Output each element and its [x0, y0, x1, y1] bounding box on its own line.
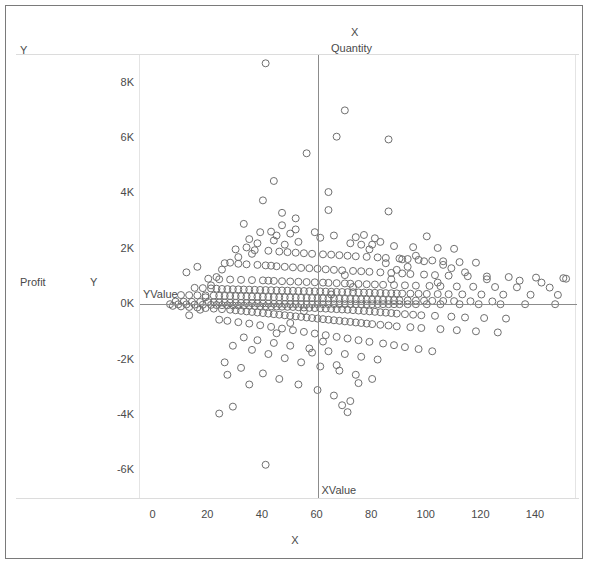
- scatter-point[interactable]: [259, 370, 266, 377]
- scatter-point[interactable]: [276, 375, 283, 382]
- scatter-point[interactable]: [448, 265, 455, 272]
- scatter-point[interactable]: [248, 346, 255, 353]
- scatter-point[interactable]: [445, 291, 452, 298]
- scatter-point[interactable]: [295, 278, 302, 285]
- scatter-point[interactable]: [418, 325, 425, 332]
- scatter-point[interactable]: [385, 322, 392, 329]
- scatter-point[interactable]: [306, 265, 313, 272]
- scatter-point[interactable]: [235, 254, 242, 261]
- scatter-point[interactable]: [330, 392, 337, 399]
- scatter-point[interactable]: [281, 263, 288, 270]
- scatter-point[interactable]: [358, 268, 365, 275]
- scatter-point[interactable]: [391, 243, 398, 250]
- scatter-point[interactable]: [243, 261, 250, 268]
- scatter-point[interactable]: [295, 238, 302, 245]
- scatter-point[interactable]: [538, 279, 545, 286]
- scatter-point[interactable]: [412, 282, 419, 289]
- scatter-point[interactable]: [391, 342, 398, 349]
- scatter-point[interactable]: [238, 364, 245, 371]
- scatter-point[interactable]: [429, 348, 436, 355]
- scatter-point[interactable]: [371, 281, 378, 288]
- scatter-point[interactable]: [415, 346, 422, 353]
- scatter-point[interactable]: [240, 334, 247, 341]
- scatter-point[interactable]: [554, 291, 561, 298]
- scatter-point[interactable]: [426, 282, 433, 289]
- scatter-point[interactable]: [328, 251, 335, 258]
- scatter-point[interactable]: [407, 290, 414, 297]
- scatter-point[interactable]: [240, 220, 247, 227]
- scatter-point[interactable]: [322, 266, 329, 273]
- scatter-point[interactable]: [369, 375, 376, 382]
- scatter-point[interactable]: [393, 266, 400, 273]
- scatter-point[interactable]: [431, 312, 438, 319]
- scatter-point[interactable]: [546, 284, 553, 291]
- scatter-point[interactable]: [341, 107, 348, 114]
- scatter-point[interactable]: [257, 322, 264, 329]
- scatter-point[interactable]: [183, 269, 190, 276]
- scatter-point[interactable]: [229, 342, 236, 349]
- scatter-point[interactable]: [279, 222, 286, 229]
- scatter-point[interactable]: [355, 337, 362, 344]
- scatter-point[interactable]: [377, 321, 384, 328]
- scatter-point[interactable]: [363, 253, 370, 260]
- scatter-point[interactable]: [292, 215, 299, 222]
- scatter-point[interactable]: [336, 252, 343, 259]
- scatter-point[interactable]: [423, 290, 430, 297]
- scatter-point[interactable]: [273, 330, 280, 337]
- scatter-point[interactable]: [257, 229, 264, 236]
- scatter-point[interactable]: [319, 338, 326, 345]
- scatter-point[interactable]: [358, 353, 365, 360]
- plot-area[interactable]: YValue XValue: [139, 55, 576, 498]
- scatter-point[interactable]: [478, 291, 485, 298]
- scatter-point[interactable]: [186, 312, 193, 319]
- scatter-point[interactable]: [270, 339, 277, 346]
- scatter-point[interactable]: [300, 250, 307, 257]
- scatter-point[interactable]: [347, 240, 354, 247]
- scatter-point[interactable]: [325, 348, 332, 355]
- scatter-point[interactable]: [344, 335, 351, 342]
- scatter-point[interactable]: [276, 248, 283, 255]
- scatter-point[interactable]: [453, 327, 460, 334]
- scatter-point[interactable]: [445, 272, 452, 279]
- scatter-point[interactable]: [284, 249, 291, 256]
- scatter-point[interactable]: [254, 261, 261, 268]
- scatter-point[interactable]: [527, 291, 534, 298]
- scatter-point[interactable]: [330, 232, 337, 239]
- scatter-point[interactable]: [333, 362, 340, 369]
- scatter-point[interactable]: [437, 326, 444, 333]
- scatter-point[interactable]: [434, 244, 441, 251]
- scatter-point[interactable]: [407, 324, 414, 331]
- scatter-point[interactable]: [423, 233, 430, 240]
- scatter-point[interactable]: [232, 246, 239, 253]
- scatter-point[interactable]: [431, 272, 438, 279]
- scatter-point[interactable]: [235, 319, 242, 326]
- scatter-point[interactable]: [492, 284, 499, 291]
- scatter-point[interactable]: [199, 285, 206, 292]
- scatter-point[interactable]: [227, 276, 234, 283]
- scatter-point[interactable]: [229, 403, 236, 410]
- scatter-point[interactable]: [287, 342, 294, 349]
- scatter-point[interactable]: [407, 271, 414, 278]
- scatter-point[interactable]: [319, 251, 326, 258]
- scatter-point[interactable]: [265, 351, 272, 358]
- scatter-point[interactable]: [429, 257, 436, 264]
- scatter-point[interactable]: [380, 340, 387, 347]
- scatter-point[interactable]: [224, 317, 231, 324]
- scatter-point[interactable]: [300, 328, 307, 335]
- scatter-point[interactable]: [341, 351, 348, 358]
- scatter-point[interactable]: [248, 277, 255, 284]
- scatter-point[interactable]: [434, 291, 441, 298]
- scatter-point[interactable]: [401, 282, 408, 289]
- scatter-point[interactable]: [470, 283, 477, 290]
- scatter-point[interactable]: [186, 292, 193, 299]
- scatter-point[interactable]: [177, 292, 184, 299]
- scatter-point[interactable]: [344, 409, 351, 416]
- scatter-point[interactable]: [453, 283, 460, 290]
- scatter-point[interactable]: [377, 269, 384, 276]
- scatter-point[interactable]: [221, 359, 228, 366]
- scatter-point[interactable]: [502, 315, 509, 322]
- scatter-marks[interactable]: [140, 55, 577, 498]
- scatter-point[interactable]: [393, 323, 400, 330]
- scatter-point[interactable]: [270, 177, 277, 184]
- scatter-point[interactable]: [344, 252, 351, 259]
